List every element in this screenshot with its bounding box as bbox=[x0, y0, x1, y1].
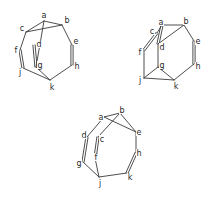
bond-d-g bbox=[33, 45, 35, 67]
structure-3: abcdefghjk bbox=[76, 106, 142, 188]
structure-2: abcdefghjk bbox=[137, 17, 201, 91]
bond-c-f bbox=[20, 32, 26, 50]
atom-label-b: b bbox=[119, 106, 124, 115]
atom-label-b: b bbox=[183, 17, 188, 26]
atom-label-h: h bbox=[136, 149, 141, 158]
bond-j-k bbox=[23, 68, 50, 80]
atom-label-h: h bbox=[195, 62, 200, 71]
bond-g-j bbox=[144, 67, 158, 78]
atom-label-f: f bbox=[139, 48, 142, 57]
structure-1: abcdefghjk bbox=[13, 11, 80, 92]
bond-h-k bbox=[126, 153, 135, 173]
bond-h-k bbox=[174, 64, 194, 80]
atom-label-f: f bbox=[95, 153, 98, 162]
bond-a-b bbox=[44, 21, 62, 25]
atom-label-j: j bbox=[98, 179, 101, 188]
bond-d-g bbox=[84, 137, 88, 162]
bond-d-g bbox=[82, 137, 86, 162]
atom-label-d: d bbox=[81, 131, 86, 140]
bond-d-b bbox=[158, 25, 184, 44]
atom-label-a: a bbox=[42, 11, 47, 20]
atom-label-e: e bbox=[137, 128, 142, 137]
bond-b-e bbox=[120, 113, 136, 132]
molecule-diagram: abcdefghjk abcdefghjk abcdefghjk bbox=[0, 0, 208, 200]
atom-label-a: a bbox=[159, 18, 164, 27]
atom-label-d: d bbox=[36, 40, 41, 49]
atom-label-k: k bbox=[50, 83, 55, 92]
atom-label-d: d bbox=[159, 43, 164, 52]
atom-label-e: e bbox=[74, 37, 79, 46]
atom-label-a: a bbox=[99, 113, 104, 122]
atom-label-g: g bbox=[159, 61, 164, 70]
atom-label-c: c bbox=[20, 24, 24, 33]
atom-label-b: b bbox=[64, 16, 69, 25]
bond-k-j bbox=[99, 173, 127, 177]
bond-h-k bbox=[50, 65, 72, 80]
atom-label-f: f bbox=[15, 46, 18, 55]
atom-label-c: c bbox=[100, 135, 104, 144]
bond-b-e bbox=[62, 25, 72, 45]
bond-a-e bbox=[104, 117, 136, 132]
atom-label-k: k bbox=[174, 82, 179, 91]
bond-j-k bbox=[144, 78, 174, 80]
atom-label-e: e bbox=[196, 37, 201, 46]
bond-b-e bbox=[184, 25, 194, 41]
bond-c-f bbox=[145, 34, 158, 51]
atom-label-j: j bbox=[18, 68, 21, 77]
atom-label-c: c bbox=[150, 27, 154, 36]
atom-label-k: k bbox=[128, 173, 133, 182]
atom-label-h: h bbox=[74, 62, 79, 71]
atom-label-j: j bbox=[138, 76, 141, 85]
atom-label-g: g bbox=[76, 159, 81, 168]
atom-label-g: g bbox=[37, 61, 42, 70]
